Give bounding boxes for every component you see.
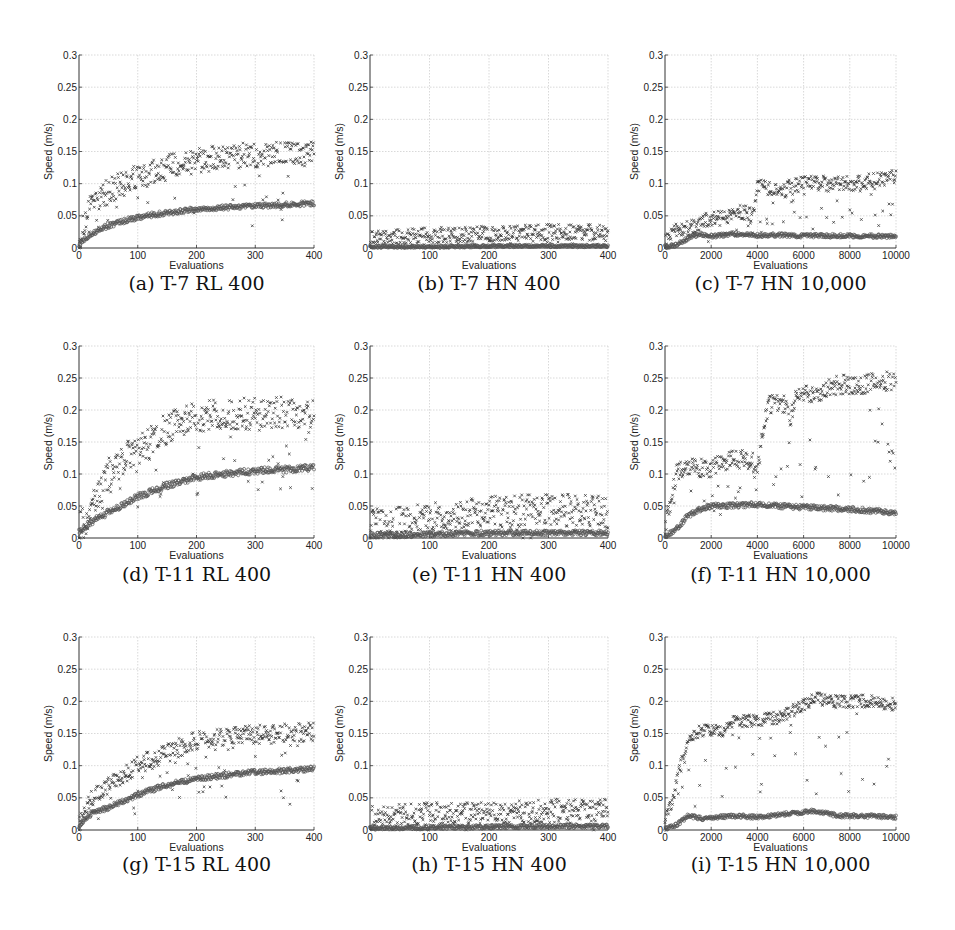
y-tick-label: 0.2	[649, 114, 663, 125]
x-tick-label: 300	[540, 250, 557, 261]
x-tick-label: 200	[481, 832, 498, 843]
scatter-plot: 00.050.10.150.20.250.30100200300400Evalu…	[0, 0, 955, 930]
y-tick-label: 0.3	[649, 341, 663, 352]
y-tick-label: 0.3	[354, 50, 368, 61]
x-tick-label: 8000	[839, 250, 862, 261]
x-tick-label: 6000	[792, 540, 815, 551]
y-tick-label: 0.25	[349, 664, 369, 675]
y-tick-label: 0	[362, 243, 368, 254]
x-tick-label: 300	[247, 540, 264, 551]
y-tick-label: 0.3	[649, 50, 663, 61]
x-tick-label: 100	[129, 250, 146, 261]
x-tick-label: 400	[306, 540, 323, 551]
series-best	[664, 692, 898, 824]
series-mean	[664, 501, 898, 539]
y-tick-label: 0.25	[349, 373, 369, 384]
x-axis-label: Evaluations	[753, 259, 807, 271]
y-tick-label: 0.05	[58, 792, 78, 803]
x-tick-label: 6000	[792, 250, 815, 261]
x-axis-label: Evaluations	[462, 841, 516, 853]
x-tick-label: 300	[247, 250, 264, 261]
y-tick-label: 0.2	[354, 114, 368, 125]
y-tick-label: 0.2	[63, 114, 77, 125]
series-mean	[78, 765, 316, 829]
y-tick-label: 0.1	[649, 760, 663, 771]
series-mean	[664, 231, 898, 250]
series-best	[369, 493, 610, 539]
y-tick-label: 0.25	[644, 373, 664, 384]
series-best	[664, 169, 898, 249]
x-tick-label: 10000	[882, 540, 910, 551]
panel-caption: (e) T-11 HN 400	[369, 563, 609, 585]
x-tick-label: 400	[600, 250, 617, 261]
y-tick-label: 0.15	[58, 146, 78, 157]
panel-caption: (c) T-7 HN 10,000	[661, 272, 901, 294]
panel-caption: (b) T-7 HN 400	[369, 272, 609, 294]
y-tick-label: 0.2	[354, 696, 368, 707]
y-tick-label: 0.25	[58, 82, 78, 93]
y-axis-label: Speed (m/s)	[628, 123, 640, 180]
x-axis-label: Evaluations	[462, 549, 516, 561]
series-mean	[78, 200, 316, 248]
series-best	[78, 396, 316, 540]
scatter-plot: 00.050.10.150.20.250.30100200300400Evalu…	[0, 0, 955, 930]
y-tick-label: 0.1	[649, 469, 663, 480]
x-axis-label: Evaluations	[753, 841, 807, 853]
y-tick-label: 0.25	[644, 664, 664, 675]
x-tick-label: 200	[188, 540, 205, 551]
y-tick-label: 0.1	[354, 469, 368, 480]
scatter-plot: 00.050.10.150.20.250.3020004000600080001…	[0, 0, 955, 930]
x-tick-label: 0	[662, 250, 668, 261]
x-tick-label: 8000	[839, 832, 862, 843]
series-mean	[369, 823, 610, 832]
x-tick-label: 400	[600, 540, 617, 551]
x-tick-label: 300	[540, 540, 557, 551]
y-tick-label: 0.15	[644, 146, 664, 157]
scatter-plot: 00.050.10.150.20.250.30100200300400Evalu…	[0, 0, 955, 930]
x-tick-label: 8000	[839, 540, 862, 551]
x-tick-label: 0	[367, 250, 373, 261]
y-tick-label: 0.1	[63, 760, 77, 771]
y-tick-label: 0	[71, 533, 77, 544]
y-tick-label: 0.3	[354, 341, 368, 352]
x-tick-label: 0	[367, 540, 373, 551]
y-tick-label: 0.15	[349, 728, 369, 739]
y-tick-label: 0.1	[649, 178, 663, 189]
y-tick-label: 0	[657, 243, 663, 254]
y-tick-label: 0.15	[349, 146, 369, 157]
y-axis-label: Speed (m/s)	[333, 705, 345, 762]
scatter-plot: 00.050.10.150.20.250.30100200300400Evalu…	[0, 0, 955, 930]
series-best	[369, 798, 610, 831]
x-tick-label: 400	[306, 832, 323, 843]
y-tick-label: 0.3	[63, 341, 77, 352]
y-tick-label: 0.25	[349, 82, 369, 93]
x-axis-label: Evaluations	[753, 549, 807, 561]
x-tick-label: 400	[306, 250, 323, 261]
y-tick-label: 0.1	[354, 760, 368, 771]
y-tick-label: 0.05	[644, 501, 664, 512]
x-tick-label: 100	[421, 540, 438, 551]
series-mean	[369, 243, 610, 249]
y-axis-label: Speed (m/s)	[42, 123, 54, 180]
y-tick-label: 0.05	[644, 210, 664, 221]
x-tick-label: 200	[481, 540, 498, 551]
scatter-plot: 00.050.10.150.20.250.30100200300400Evalu…	[0, 0, 955, 930]
x-tick-label: 200	[188, 250, 205, 261]
x-tick-label: 100	[421, 250, 438, 261]
y-tick-label: 0.05	[644, 792, 664, 803]
y-tick-label: 0.05	[349, 501, 369, 512]
y-axis-label: Speed (m/s)	[628, 705, 640, 762]
y-tick-label: 0.2	[649, 405, 663, 416]
y-tick-label: 0.05	[349, 210, 369, 221]
y-axis-label: Speed (m/s)	[42, 705, 54, 762]
y-tick-label: 0	[362, 825, 368, 836]
x-tick-label: 10000	[882, 832, 910, 843]
y-tick-label: 0.3	[63, 50, 77, 61]
y-tick-label: 0	[71, 243, 77, 254]
scatter-plot: 00.050.10.150.20.250.3020004000600080001…	[0, 0, 955, 930]
x-tick-label: 0	[662, 832, 668, 843]
x-tick-label: 300	[540, 832, 557, 843]
x-tick-label: 10000	[882, 250, 910, 261]
x-tick-label: 100	[129, 832, 146, 843]
x-tick-label: 400	[600, 832, 617, 843]
